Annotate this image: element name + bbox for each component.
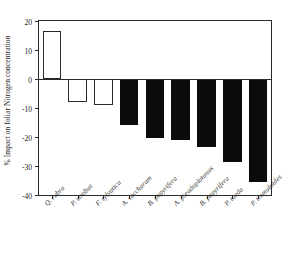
y-axis-tick-label: -30 xyxy=(22,162,32,173)
y-axis-tick: 10 xyxy=(35,50,39,51)
y-axis-tick-label: 10 xyxy=(24,46,32,57)
bar xyxy=(43,31,62,79)
bar xyxy=(197,79,216,147)
bar-chart-figure: % Impact on foliar Nitrogen concentratio… xyxy=(0,0,286,260)
bar xyxy=(120,79,139,125)
y-axis-title-text: % Impact on foliar Nitrogen concentratio… xyxy=(4,35,13,165)
bar xyxy=(249,79,268,182)
bar xyxy=(146,79,165,138)
y-axis-tick-label: 20 xyxy=(24,17,32,28)
y-axis-tick: 20 xyxy=(35,21,39,22)
y-axis-tick-label: -20 xyxy=(22,133,32,144)
y-axis-tick: -30 xyxy=(35,166,39,167)
y-axis-title: % Impact on foliar Nitrogen concentratio… xyxy=(0,0,16,200)
bar xyxy=(223,79,242,162)
bar xyxy=(68,79,87,102)
y-axis-tick-label: 0 xyxy=(28,75,32,86)
y-axis-tick-label: -10 xyxy=(22,104,32,115)
y-axis-tick: -10 xyxy=(35,108,39,109)
bar xyxy=(171,79,190,140)
bar xyxy=(94,79,113,105)
plot-area: 20100-10-20-30-40 xyxy=(38,20,272,196)
zero-baseline xyxy=(39,79,271,80)
y-axis-tick-label: -40 xyxy=(22,191,32,202)
y-axis-tick: -20 xyxy=(35,137,39,138)
x-axis-tick-labels: Q. rubraP. strobusF. sylvaticaA. sacchar… xyxy=(38,196,272,260)
